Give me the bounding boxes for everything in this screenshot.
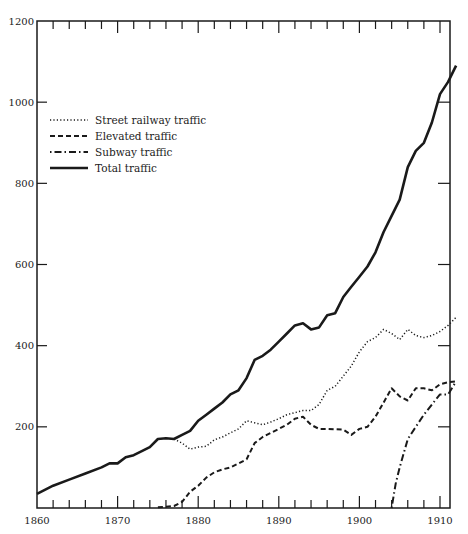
legend-label: Street railway traffic [95,114,206,126]
legend-item-street-railway: Street railway traffic [50,114,206,126]
y-tick-label: 800 [15,178,34,189]
y-tick-label: 600 [15,259,34,270]
y-tick-label: 1200 [9,16,34,27]
axes [37,21,450,508]
x-tick-label: 1890 [266,515,291,526]
series-subway-traffic [392,381,457,508]
x-tick-label: 1860 [24,515,49,526]
series-elevated-traffic [158,381,456,507]
line-chart: 20040060080010001200 1860187018801890190… [0,0,468,534]
x-tick-label: 1880 [185,515,210,526]
legend-item-subway: Subway traffic [50,146,173,158]
legend-item-elevated: Elevated traffic [50,130,177,142]
legend-item-total: Total traffic [50,162,157,174]
legend-label: Elevated traffic [95,130,177,142]
legend: Street railway traffic Elevated traffic … [50,114,206,174]
plot-frame [37,21,450,508]
x-axis-labels: 186018701880189019001910 [24,515,452,526]
x-tick-label: 1910 [427,515,452,526]
y-tick-label: 400 [15,340,34,351]
x-tick-label: 1900 [347,515,372,526]
legend-label: Total traffic [95,162,157,174]
legend-label: Subway traffic [95,146,173,158]
x-tick-label: 1870 [105,515,130,526]
y-tick-label: 200 [15,421,34,432]
tick-marks [37,21,450,508]
y-axis-labels: 20040060080010001200 [9,16,34,433]
y-tick-label: 1000 [9,97,34,108]
